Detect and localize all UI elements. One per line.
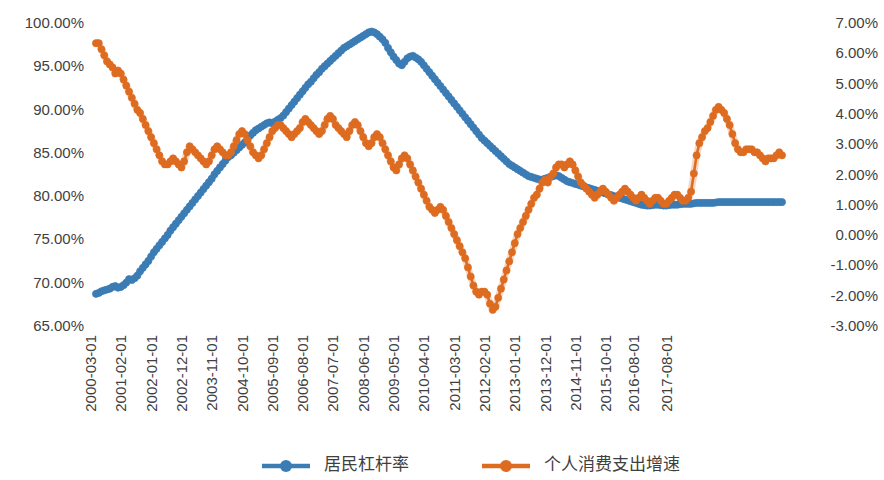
x-axis-tick-label: 2009-05-01 [385,335,402,412]
right-axis-tick-label: 6.00% [835,44,878,61]
data-point [778,152,785,159]
data-point [693,152,700,159]
series-line-halo [96,32,782,294]
data-point [690,170,697,177]
x-axis-tick-label: 2016-08-01 [625,335,642,412]
legend-label: 个人消费支出增速 [544,455,680,474]
x-axis-tick-label: 2014-11-01 [567,335,584,411]
x-axis-tick-label: 2012-02-01 [476,335,493,412]
left-axis-tick-label: 70.00% [33,274,84,291]
data-point [506,258,513,265]
x-axis-tick-label: 2013-12-01 [537,335,554,412]
legend-item-2[interactable]: 个人消费支出增速 [482,455,680,474]
x-axis-tick-label: 2006-08-01 [294,335,311,412]
data-point [464,264,471,271]
right-axis-tick-label: 1.00% [835,196,878,213]
right-axis-tick-label: -1.00% [830,256,878,273]
right-axis-tick-label: 5.00% [835,75,878,92]
data-point [729,131,736,138]
data-point [495,294,502,301]
right-axis-tick-label: -2.00% [830,287,878,304]
x-axis-tick-label: 2001-02-01 [112,335,129,412]
right-axis-tick-group: 7.00%6.00%5.00%4.00%3.00%2.00%1.00%0.00%… [830,14,878,334]
data-point [462,255,469,262]
left-axis-tick-label: 95.00% [33,57,84,74]
x-axis-tick-label: 2017-08-01 [658,335,675,412]
left-axis-tick-group: 100.00%95.00%90.00%85.00%80.00%75.00%70.… [25,14,84,334]
data-point [726,121,733,128]
left-axis-tick-label: 65.00% [33,317,84,334]
data-point [508,249,515,256]
chart-container: 100.00%95.00%90.00%85.00%80.00%75.00%70.… [0,0,884,480]
x-axis-tick-label: 2013-01-01 [506,335,523,412]
data-point [687,188,694,195]
data-point [492,303,499,310]
data-point [503,267,510,274]
data-point [511,240,518,247]
x-axis-tick-label: 2015-10-01 [597,335,614,412]
x-axis-tick-label: 2002-01-01 [143,335,160,412]
legend-marker-icon [500,460,512,472]
chart-legend: 居民杠杆率个人消费支出增速 [262,455,680,474]
right-axis-tick-label: 2.00% [835,166,878,183]
right-axis-tick-label: 7.00% [835,14,878,31]
data-point [467,273,474,280]
series-line [96,32,782,294]
legend-item-1[interactable]: 居民杠杆率 [262,455,409,474]
right-axis-tick-label: -3.00% [830,317,878,334]
right-axis-tick-label: 3.00% [835,135,878,152]
line-chart: 100.00%95.00%90.00%85.00%80.00%75.00%70.… [0,0,884,480]
right-axis-tick-label: 4.00% [835,105,878,122]
x-axis-tick-label: 2005-09-01 [264,335,281,412]
left-axis-tick-label: 100.00% [25,14,84,31]
series-layer [92,28,785,314]
x-axis-tick-label: 2002-12-01 [173,335,190,412]
data-point [484,291,491,298]
right-axis-tick-label: 0.00% [835,226,878,243]
x-axis-tick-group: 2000-03-012001-02-012002-01-012002-12-01… [82,335,675,412]
legend-label: 居民杠杆率 [324,455,409,474]
left-axis-tick-label: 80.00% [33,187,84,204]
data-point [497,285,504,292]
x-axis-tick-label: 2000-03-01 [82,335,99,412]
left-axis-tick-label: 75.00% [33,230,84,247]
x-axis-tick-label: 2008-06-01 [355,335,372,412]
data-point [181,158,188,165]
x-axis-tick-label: 2011-03-01 [446,335,463,411]
x-axis-tick-label: 2003-11-01 [203,335,220,411]
left-axis-tick-label: 90.00% [33,101,84,118]
x-axis-tick-label: 2007-07-01 [324,335,341,412]
data-point [778,198,785,205]
series-1 [92,28,785,298]
data-point [500,276,507,283]
x-axis-tick-label: 2004-10-01 [234,335,251,412]
left-axis-tick-label: 85.00% [33,144,84,161]
legend-marker-icon [280,460,292,472]
x-axis-tick-label: 2010-04-01 [415,335,432,412]
